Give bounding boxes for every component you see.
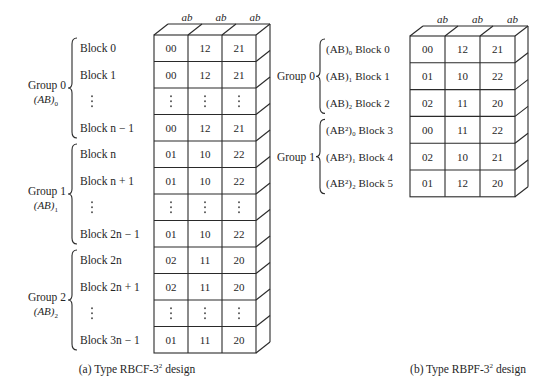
column-header: ab bbox=[250, 11, 262, 23]
side-edge bbox=[515, 53, 528, 63]
group-label: Group 1 bbox=[28, 185, 66, 198]
cell-value: 00 bbox=[166, 42, 178, 54]
left-panel-rbcf: abababBlock 0001221Block 1001221Block n … bbox=[28, 11, 270, 376]
ellipsis-dot bbox=[238, 95, 240, 97]
ellipsis-dot bbox=[238, 100, 240, 102]
side-edge bbox=[256, 289, 270, 300]
cell-value: 20 bbox=[492, 97, 504, 109]
cell-value: 10 bbox=[200, 228, 212, 240]
side-edge bbox=[256, 183, 270, 194]
ellipsis-dot bbox=[204, 307, 206, 309]
cell-value: 02 bbox=[166, 281, 177, 293]
design-diagram: abababBlock 0001221Block 1001221Block n … bbox=[0, 0, 549, 389]
block-label: (AB)₂ Block 2 bbox=[326, 97, 390, 110]
ellipsis-dot bbox=[204, 100, 206, 102]
column-header: ab bbox=[472, 13, 484, 25]
top-edge bbox=[445, 26, 458, 36]
block-label: (AB)₀ Block 0 bbox=[326, 43, 390, 56]
column-header: ab bbox=[437, 13, 449, 25]
column-header: ab bbox=[507, 13, 519, 25]
cell-value: 02 bbox=[166, 254, 177, 266]
cell-value: 22 bbox=[234, 228, 245, 240]
brace-icon bbox=[68, 144, 77, 244]
top-edge bbox=[410, 26, 423, 36]
side-edge bbox=[256, 157, 270, 168]
cell-value: 20 bbox=[234, 281, 246, 293]
top-edge bbox=[154, 24, 168, 35]
cell-value: 12 bbox=[200, 42, 211, 54]
side-edge bbox=[256, 77, 270, 88]
cell-value: 22 bbox=[492, 124, 503, 136]
ellipsis-dot bbox=[170, 317, 172, 319]
right-panel-rbpf: ababab(AB)₀ Block 0001221(AB)₁ Block 101… bbox=[277, 13, 528, 376]
cell-value: 21 bbox=[234, 69, 245, 81]
cell-value: 01 bbox=[166, 148, 177, 160]
ellipsis-dot bbox=[170, 95, 172, 97]
ellipsis-dot bbox=[238, 317, 240, 319]
cell-value: 10 bbox=[457, 70, 469, 82]
ellipsis-dot bbox=[91, 211, 93, 213]
cell-value: 12 bbox=[457, 43, 468, 55]
cell-value: 10 bbox=[200, 148, 212, 160]
top-edge bbox=[515, 26, 528, 36]
caption-b: (b) Type RBPF-32 design bbox=[410, 362, 526, 376]
block-label: (AB²)₂ Block 5 bbox=[326, 177, 394, 190]
group-effect: (AB)0 bbox=[34, 93, 59, 108]
cell-value: 00 bbox=[422, 43, 434, 55]
cell-value: 11 bbox=[200, 281, 211, 293]
ellipsis-dot bbox=[91, 312, 93, 314]
block-label: Block n − 1 bbox=[80, 122, 134, 134]
cell-value: 12 bbox=[200, 122, 211, 134]
ellipsis-dot bbox=[91, 307, 93, 309]
cell-value: 00 bbox=[166, 122, 178, 134]
block-label: Block 1 bbox=[80, 69, 116, 81]
side-edge bbox=[515, 187, 528, 197]
group-effect: (AB)1 bbox=[34, 199, 59, 214]
side-edge bbox=[515, 106, 528, 116]
cell-value: 01 bbox=[166, 228, 177, 240]
column-header: ab bbox=[182, 11, 194, 23]
cell-value: 22 bbox=[234, 148, 245, 160]
side-edge bbox=[515, 160, 528, 170]
cell-value: 02 bbox=[422, 151, 433, 163]
side-edge bbox=[256, 342, 270, 353]
cell-value: 22 bbox=[492, 70, 503, 82]
caption-a: (a) Type RBCF-32 design bbox=[79, 362, 196, 376]
cell-value: 02 bbox=[422, 97, 433, 109]
top-edge bbox=[256, 24, 270, 35]
ellipsis-dot bbox=[170, 100, 172, 102]
ellipsis-dot bbox=[238, 206, 240, 208]
cell-value: 21 bbox=[492, 151, 503, 163]
ellipsis-dot bbox=[91, 317, 93, 319]
block-label: (AB²)₀ Block 3 bbox=[326, 124, 394, 137]
group-label: Group 1 bbox=[277, 151, 315, 164]
cell-value: 11 bbox=[200, 254, 211, 266]
group-effect: (AB)2 bbox=[34, 305, 59, 320]
side-edge bbox=[256, 210, 270, 221]
block-label: (AB)₁ Block 1 bbox=[326, 70, 390, 83]
block-label: (AB²)₁ Block 4 bbox=[326, 151, 394, 164]
ellipsis-dot bbox=[170, 206, 172, 208]
cell-value: 20 bbox=[234, 254, 246, 266]
ellipsis-dot bbox=[91, 201, 93, 203]
ellipsis-dot bbox=[170, 201, 172, 203]
cell-value: 21 bbox=[492, 43, 503, 55]
ellipsis-dot bbox=[170, 312, 172, 314]
side-edge bbox=[256, 263, 270, 274]
ellipsis-dot bbox=[204, 312, 206, 314]
block-label: Block 0 bbox=[80, 42, 116, 54]
ellipsis-dot bbox=[170, 307, 172, 309]
ellipsis-dot bbox=[238, 312, 240, 314]
top-edge bbox=[480, 26, 493, 36]
side-edge bbox=[515, 133, 528, 143]
brace-icon bbox=[68, 38, 77, 138]
block-label: Block n + 1 bbox=[80, 175, 134, 187]
cell-value: 20 bbox=[234, 334, 246, 346]
ellipsis-dot bbox=[238, 211, 240, 213]
cell-value: 11 bbox=[457, 124, 468, 136]
ellipsis-dot bbox=[170, 105, 172, 107]
cell-value: 00 bbox=[166, 69, 178, 81]
ellipsis-dot bbox=[204, 201, 206, 203]
ellipsis-dot bbox=[204, 95, 206, 97]
cell-value: 11 bbox=[457, 97, 468, 109]
